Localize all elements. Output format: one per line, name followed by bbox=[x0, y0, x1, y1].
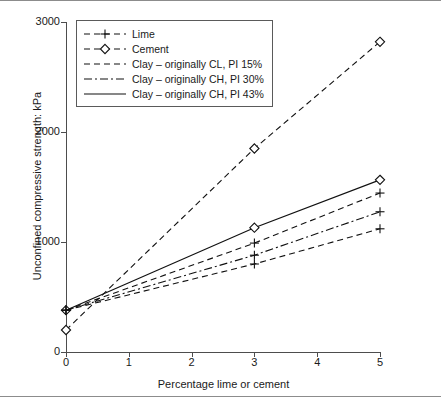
y-tick-label: 0 bbox=[54, 346, 60, 357]
legend-label: Clay – originally CH, PI 30% bbox=[132, 73, 264, 85]
x-tick-label: 2 bbox=[177, 357, 207, 368]
legend-swatch-clay-cl-15 bbox=[83, 57, 127, 71]
legend-label: Clay – originally CH, PI 43% bbox=[132, 88, 264, 100]
y-axis-title: Unconfined compressive strength: kPa bbox=[31, 81, 43, 291]
legend-swatch-cement bbox=[83, 42, 127, 56]
data-point-plus bbox=[376, 224, 385, 233]
legend-swatch-lime bbox=[83, 27, 127, 41]
series-line bbox=[66, 193, 380, 310]
series-line bbox=[66, 180, 380, 310]
legend-label: Lime bbox=[132, 28, 155, 40]
x-tick-label: 0 bbox=[51, 357, 81, 368]
legend: Lime Cement Clay – originally CL, PI 15%… bbox=[76, 20, 273, 107]
y-tick bbox=[61, 242, 66, 243]
legend-item: Lime bbox=[83, 26, 264, 41]
data-point-plus bbox=[250, 239, 259, 248]
data-point-plus bbox=[250, 260, 259, 269]
data-point-diamond bbox=[100, 44, 109, 53]
legend-swatch-clay-ch-30 bbox=[83, 72, 127, 86]
x-tick-label: 1 bbox=[114, 357, 144, 368]
data-point-plus bbox=[376, 207, 385, 216]
y-tick bbox=[61, 132, 66, 133]
legend-item: Clay – originally CH, PI 43% bbox=[83, 86, 264, 101]
legend-item: Clay – originally CL, PI 15% bbox=[83, 56, 264, 71]
legend-label: Cement bbox=[132, 43, 169, 55]
data-point-plus bbox=[62, 306, 71, 315]
data-point-diamond bbox=[250, 144, 259, 153]
y-tick bbox=[61, 22, 66, 23]
figure-container: 0100020003000012345 Unconfined compressi… bbox=[0, 0, 441, 408]
data-point-plus bbox=[101, 29, 110, 38]
legend-swatch-clay-ch-43 bbox=[83, 87, 127, 101]
series-line bbox=[66, 212, 380, 310]
y-tick-label: 3000 bbox=[36, 16, 60, 27]
x-tick-label: 5 bbox=[365, 357, 395, 368]
data-point-diamond bbox=[375, 175, 384, 184]
x-tick-label: 3 bbox=[239, 357, 269, 368]
legend-label: Clay – originally CL, PI 15% bbox=[132, 58, 262, 70]
plot-area: 0100020003000012345 Unconfined compressi… bbox=[0, 0, 441, 408]
legend-item: Cement bbox=[83, 41, 264, 56]
x-tick-label: 4 bbox=[302, 357, 332, 368]
data-point-plus bbox=[250, 251, 259, 260]
x-axis-title: Percentage lime or cement bbox=[66, 378, 381, 390]
data-point-plus bbox=[376, 189, 385, 198]
data-point-diamond bbox=[250, 223, 259, 232]
legend-item: Clay – originally CH, PI 30% bbox=[83, 71, 264, 86]
